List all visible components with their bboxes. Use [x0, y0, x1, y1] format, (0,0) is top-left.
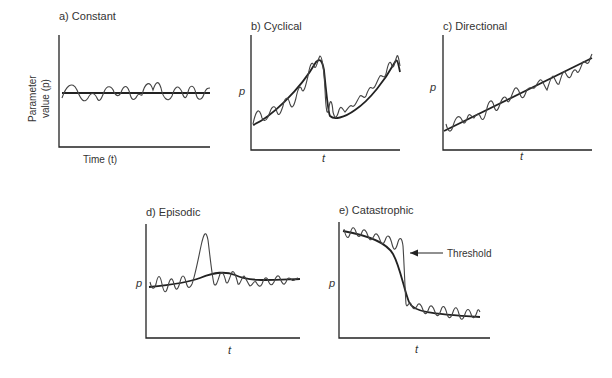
y-axis-label: Parameter value (p) [27, 75, 51, 122]
panel-episodic: d) Episodic p t [135, 206, 300, 356]
panel-title-cyclical: b) Cyclical [251, 20, 302, 32]
fluctuation-line [62, 83, 210, 101]
y-axis-label: p [429, 81, 436, 93]
threshold-annotation: Threshold [447, 248, 491, 259]
x-axis-label: t [228, 344, 232, 356]
panel-catastrophic: e) Catastrophic Threshold p t [328, 204, 491, 355]
axes [339, 222, 490, 338]
panel-title-directional: c) Directional [443, 20, 507, 32]
trend-line [253, 60, 400, 125]
trend-line [149, 273, 300, 287]
panel-title-catastrophic: e) Catastrophic [339, 204, 414, 216]
x-axis-label: t [322, 152, 326, 164]
y-axis-label: p [135, 277, 142, 289]
panel-title-constant: a) Constant [59, 10, 116, 22]
panel-title-episodic: d) Episodic [146, 206, 201, 218]
x-axis-label: t [520, 150, 524, 162]
axes [443, 35, 592, 150]
fluctuation-line [344, 228, 480, 320]
y-axis-label: p [238, 85, 245, 97]
svg-text:Parameter: Parameter [27, 75, 38, 122]
svg-text:value (p): value (p) [40, 79, 51, 118]
x-axis-label: Time (t) [83, 154, 117, 165]
panel-cyclical: b) Cyclical p t [238, 20, 400, 164]
panel-constant: a) Constant Time (t) Parameter value (p) [27, 10, 210, 165]
axes [59, 35, 210, 147]
panel-directional: c) Directional p t [429, 20, 592, 162]
figure-canvas: a) Constant Time (t) Parameter value (p)… [0, 0, 612, 378]
fluctuation-line [150, 234, 298, 292]
x-axis-label: t [415, 343, 419, 355]
y-axis-label: p [328, 277, 335, 289]
